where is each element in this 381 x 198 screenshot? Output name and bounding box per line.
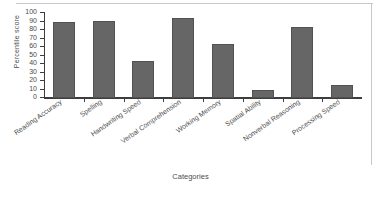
y-axis-tick: 10 xyxy=(40,89,45,90)
y-axis-tick-label: 90 xyxy=(29,16,37,25)
y-axis-tick: 40 xyxy=(40,63,45,64)
y-axis-tick: 90 xyxy=(40,21,45,22)
y-axis-tick-label: 30 xyxy=(29,67,37,76)
x-axis-tick-label: Spelling xyxy=(78,98,102,118)
y-axis-title: Percentile score xyxy=(13,0,20,92)
y-axis-tick: 80 xyxy=(40,29,45,30)
y-axis-tick-label: 0 xyxy=(33,92,37,101)
y-axis-tick-label: 60 xyxy=(29,41,37,50)
x-axis-tick-label: Reading Accuracy xyxy=(13,98,63,136)
figure-top-border xyxy=(16,3,373,4)
bar xyxy=(331,85,353,98)
y-axis-tick: 70 xyxy=(40,38,45,39)
y-axis-tick: 30 xyxy=(40,72,45,73)
y-axis-tick: 60 xyxy=(40,46,45,47)
bar xyxy=(53,22,75,98)
x-axis-title: Categories xyxy=(0,172,381,181)
y-axis-tick-label: 20 xyxy=(29,75,37,84)
y-axis-tick-label: 50 xyxy=(29,50,37,59)
y-axis-tick-label: 80 xyxy=(29,24,37,33)
bar xyxy=(132,61,154,98)
y-axis-tick-label: 100 xyxy=(25,7,37,16)
y-axis-tick: 50 xyxy=(40,55,45,56)
x-axis-tick-label: Spatial Ability xyxy=(224,98,262,128)
bar xyxy=(212,44,234,98)
plot-area: 0102030405060708090100 xyxy=(44,12,362,98)
y-axis-tick-label: 70 xyxy=(29,33,37,42)
bar xyxy=(172,18,194,98)
y-axis-tick-label: 10 xyxy=(29,84,37,93)
bar xyxy=(291,27,313,98)
bar xyxy=(93,21,115,98)
y-axis-tick-label: 40 xyxy=(29,58,37,67)
bar-chart-figure: Percentile score 0102030405060708090100 … xyxy=(0,0,381,198)
y-axis-tick: 100 xyxy=(40,12,45,13)
y-axis-tick: 20 xyxy=(40,80,45,81)
x-axis-tick-labels: Reading AccuracySpellingHandwriting Spee… xyxy=(44,98,374,160)
bar xyxy=(252,90,274,99)
